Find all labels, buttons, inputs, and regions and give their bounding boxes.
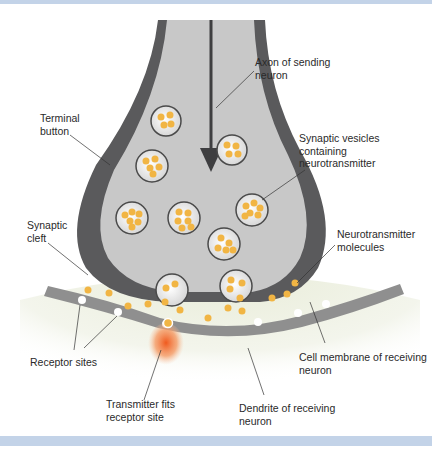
label-axon: Axon of sending neuron [255,56,330,81]
label-dendrite: Dendrite of receiving neuron [239,402,335,427]
label-transmitter-fits: Transmitter fits receptor site [106,398,175,423]
receptor-glow [148,323,184,367]
vesicle [168,202,200,234]
vesicle [136,150,168,182]
vesicle-fusing [156,274,188,306]
bottom-decorative-band [0,436,432,446]
label-synaptic-vesicles: Synaptic vesicles containing neurotransm… [299,132,380,170]
vesicle-fusing [220,270,252,302]
vesicle [208,228,240,260]
label-receptor-sites: Receptor sites [30,356,97,369]
label-synaptic-cleft: Synaptic cleft [27,219,67,244]
vesicle [116,202,148,234]
bound-transmitter [164,319,173,328]
vesicle [217,135,247,165]
label-cell-membrane: Cell membrane of receiving neuron [299,351,427,376]
label-neurotransmitter-molecules: Neurotransmitter molecules [337,228,415,253]
label-terminal-button: Terminal button [40,112,80,137]
vesicle [151,106,181,136]
